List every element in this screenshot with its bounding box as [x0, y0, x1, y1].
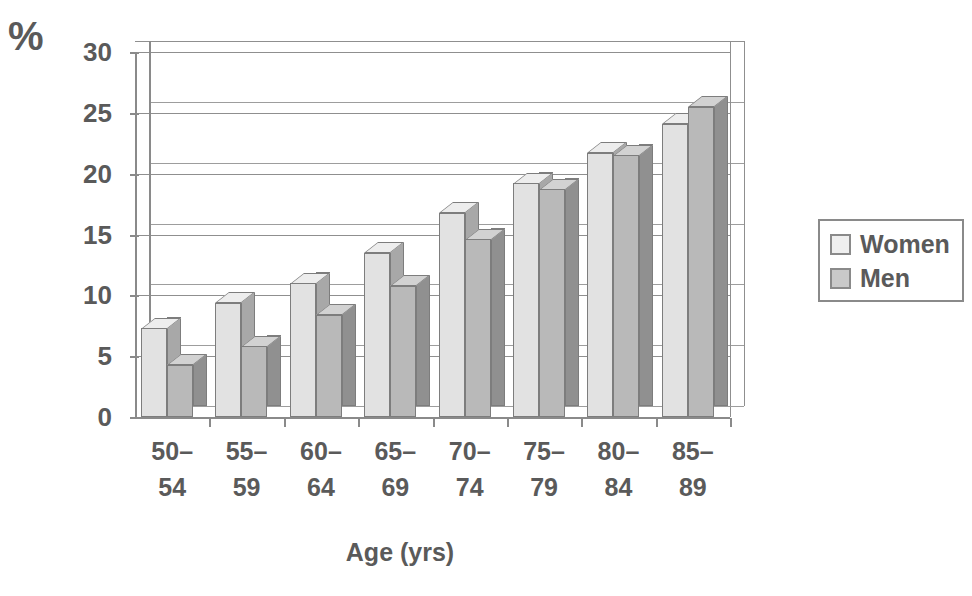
gridline-back — [149, 163, 744, 164]
x-axis-tick-mark — [358, 418, 360, 427]
x-axis-tick-label-line1: 60– — [281, 433, 361, 469]
x-axis-title: Age (yrs) — [250, 538, 550, 567]
x-axis-tick-label: 60–64 — [281, 433, 361, 505]
x-axis-tick-label-line2: 79 — [504, 469, 584, 505]
x-axis-tick-mark — [433, 418, 435, 427]
x-axis-tick-label-line1: 65– — [355, 433, 435, 469]
x-axis-tick-label: 55–59 — [207, 433, 287, 505]
bar-front-face — [662, 124, 688, 417]
x-axis-tick-label-line1: 80– — [578, 433, 658, 469]
bar-men — [613, 144, 653, 417]
x-axis-tick-label-line1: 85– — [653, 433, 733, 469]
bar-front-face — [364, 253, 390, 417]
bar-front-face — [439, 213, 465, 417]
y-axis-line — [135, 52, 137, 417]
x-axis-tick-mark — [656, 418, 658, 427]
x-axis-tick-label-line2: 84 — [578, 469, 658, 505]
x-axis-tick-label-line2: 59 — [207, 469, 287, 505]
bar-chart: % 051015202530 50–5455–5960–6465–6970–74… — [0, 0, 972, 596]
x-axis-tick-label: 80–84 — [578, 433, 658, 505]
bar-front-face — [167, 365, 193, 417]
legend-label-men: Men — [860, 264, 910, 293]
legend-label-women: Women — [860, 230, 950, 259]
x-axis-tick-label: 65–69 — [355, 433, 435, 505]
x-axis-tick-mark — [209, 418, 211, 427]
x-axis-tick-label-line2: 74 — [430, 469, 510, 505]
frame-right — [744, 41, 745, 406]
x-axis-tick-label: 75–79 — [504, 433, 584, 505]
frame-right-front — [730, 52, 731, 417]
x-axis-tick-mark — [284, 418, 286, 427]
x-axis-tick-label: 85–89 — [653, 433, 733, 505]
y-axis-tick-label: 25 — [50, 97, 112, 128]
legend-swatch-women-icon — [830, 234, 851, 255]
bar-men — [167, 354, 207, 417]
y-axis-tick-label: 0 — [50, 402, 112, 433]
bar-side-face — [342, 304, 356, 406]
x-axis-tick-label-line2: 64 — [281, 469, 361, 505]
y-axis-tick-label: 5 — [50, 341, 112, 372]
bar-side-face — [491, 228, 505, 406]
legend-swatch-men-icon — [830, 268, 851, 289]
x-axis-tick-label-line1: 55– — [207, 433, 287, 469]
y-axis-tick-label: 30 — [50, 37, 112, 68]
bar-front-face — [316, 315, 342, 417]
bar-front-face — [215, 303, 241, 417]
bar-men — [539, 178, 579, 417]
bar-front-face — [539, 189, 565, 417]
frame-depth-edge — [135, 41, 149, 42]
bar-front-face — [688, 107, 714, 417]
bar-front-face — [465, 239, 491, 417]
y-axis-tick-label: 20 — [50, 158, 112, 189]
x-axis-tick-label-line2: 69 — [355, 469, 435, 505]
chart-legend: Women Men — [818, 219, 964, 302]
gridline-back — [149, 102, 744, 103]
legend-item-men: Men — [830, 261, 962, 295]
x-axis-tick-label: 50–54 — [132, 433, 212, 505]
x-axis-tick-label: 70–74 — [430, 433, 510, 505]
x-axis-tick-label-line2: 54 — [132, 469, 212, 505]
x-axis-tick-label-line2: 89 — [653, 469, 733, 505]
x-axis-tick-label-line1: 75– — [504, 433, 584, 469]
bar-men — [241, 335, 281, 417]
frame-top — [149, 41, 744, 42]
bar-front-face — [613, 155, 639, 417]
bar-front-face — [241, 346, 267, 417]
legend-item-women: Women — [830, 227, 962, 261]
gridline — [135, 113, 730, 114]
bar-front-face — [141, 328, 167, 417]
bar-side-face — [565, 178, 579, 406]
bar-side-face — [714, 96, 728, 406]
x-axis-tick-label-line1: 50– — [132, 433, 212, 469]
bar-men — [688, 96, 728, 417]
bar-men — [465, 228, 505, 417]
bar-front-face — [513, 183, 539, 417]
bar-side-face — [267, 335, 281, 406]
bar-men — [390, 275, 430, 417]
x-axis-tick-mark — [581, 418, 583, 427]
x-axis-tick-label-line1: 70– — [430, 433, 510, 469]
bar-front-face — [390, 286, 416, 417]
bar-men — [316, 304, 356, 417]
bar-side-face — [639, 144, 653, 406]
x-axis-tick-mark — [730, 418, 732, 427]
y-axis-tick-labels: 051015202530 — [18, 0, 112, 596]
bar-front-face — [587, 153, 613, 417]
y-axis-tick-label: 15 — [50, 219, 112, 250]
y-axis-tick-label: 10 — [50, 280, 112, 311]
x-axis-tick-mark — [507, 418, 509, 427]
gridline — [135, 52, 730, 53]
bar-front-face — [290, 283, 316, 417]
bar-side-face — [416, 275, 430, 406]
